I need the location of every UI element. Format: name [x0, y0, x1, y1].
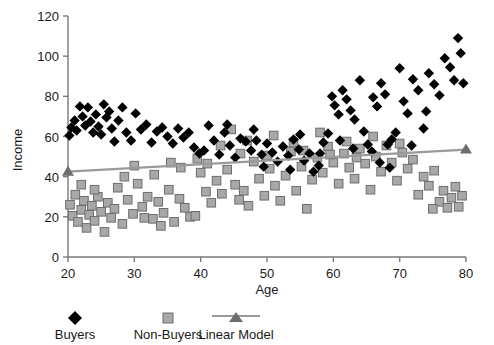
legend-non-buyers-label: Non-Buyers — [134, 327, 203, 342]
data-point-non-buyer — [207, 198, 216, 207]
data-point-non-buyer — [403, 164, 412, 173]
y-tick-label: 120 — [37, 9, 59, 24]
data-point-non-buyer — [140, 214, 149, 223]
data-point-non-buyer — [430, 166, 439, 175]
legend-non-buyers-marker — [163, 313, 173, 323]
data-point-non-buyer — [150, 170, 159, 179]
data-point-non-buyer — [276, 196, 285, 205]
data-point-non-buyer — [129, 210, 138, 219]
x-tick-label: 60 — [326, 266, 340, 281]
data-point-non-buyer — [80, 196, 89, 205]
data-point-non-buyer — [196, 168, 205, 177]
y-tick-label: 80 — [45, 89, 59, 104]
data-point-non-buyer — [308, 175, 317, 184]
data-point-non-buyer — [255, 174, 264, 183]
data-point-non-buyer — [260, 191, 269, 200]
data-point-non-buyer — [118, 220, 127, 229]
data-point-non-buyer — [82, 224, 91, 233]
y-tick-label: 100 — [37, 49, 59, 64]
data-point-non-buyer — [120, 172, 129, 181]
data-point-non-buyer — [239, 186, 248, 195]
data-point-non-buyer — [191, 212, 200, 221]
data-point-non-buyer — [443, 203, 452, 212]
data-point-non-buyer — [231, 180, 240, 189]
data-point-non-buyer — [345, 163, 354, 172]
data-point-non-buyer — [180, 203, 189, 212]
data-point-non-buyer — [154, 197, 163, 206]
data-point-non-buyer — [165, 185, 174, 194]
data-point-non-buyer — [409, 155, 418, 164]
data-point-non-buyer — [159, 209, 168, 218]
data-point-non-buyer — [451, 182, 460, 191]
data-point-non-buyer — [447, 193, 456, 202]
data-point-non-buyer — [395, 139, 404, 148]
data-point-non-buyer — [393, 176, 402, 185]
data-point-non-buyer — [97, 208, 106, 217]
data-point-non-buyer — [316, 128, 325, 137]
y-tick-label: 0 — [52, 250, 59, 265]
data-point-non-buyer — [429, 205, 438, 214]
y-tick-label: 20 — [45, 210, 59, 225]
data-point-non-buyer — [149, 215, 158, 224]
data-point-non-buyer — [77, 206, 86, 215]
data-point-non-buyer — [439, 186, 448, 195]
data-point-non-buyer — [366, 185, 375, 194]
data-point-non-buyer — [414, 190, 423, 199]
data-point-non-buyer — [369, 132, 378, 141]
data-point-non-buyer — [110, 205, 119, 214]
y-axis-title: Income — [10, 129, 25, 172]
data-point-non-buyer — [223, 165, 232, 174]
data-point-non-buyer — [235, 195, 244, 204]
data-point-non-buyer — [419, 172, 428, 181]
data-point-non-buyer — [303, 205, 312, 214]
data-point-non-buyer — [361, 159, 370, 168]
x-tick-label: 30 — [127, 266, 141, 281]
data-point-non-buyer — [143, 192, 152, 201]
data-point-non-buyer — [100, 228, 109, 237]
data-point-non-buyer — [113, 183, 122, 192]
data-point-non-buyer — [244, 201, 253, 210]
data-point-non-buyer — [157, 222, 166, 231]
x-axis-title: Age — [255, 282, 278, 297]
legend-model-label: Linear Model — [198, 327, 273, 342]
data-point-non-buyer — [107, 214, 116, 223]
y-tick-label: 40 — [45, 170, 59, 185]
data-point-non-buyer — [77, 180, 86, 189]
data-point-non-buyer — [218, 189, 227, 198]
data-point-non-buyer — [90, 217, 99, 226]
x-tick-label: 70 — [392, 266, 406, 281]
data-point-non-buyer — [271, 181, 280, 190]
data-point-non-buyer — [170, 218, 179, 227]
x-tick-label: 80 — [459, 266, 473, 281]
legend-buyers-label: Buyers — [55, 327, 96, 342]
data-point-non-buyer — [90, 185, 99, 194]
data-point-non-buyer — [74, 218, 83, 227]
data-point-non-buyer — [454, 202, 463, 211]
data-point-non-buyer — [138, 202, 147, 211]
data-point-non-buyer — [334, 179, 343, 188]
data-point-non-buyer — [71, 190, 80, 199]
data-point-non-buyer — [292, 186, 301, 195]
data-point-non-buyer — [458, 191, 467, 200]
data-point-non-buyer — [123, 195, 132, 204]
data-point-non-buyer — [425, 181, 434, 190]
data-point-non-buyer — [202, 187, 211, 196]
x-tick-label: 50 — [260, 266, 274, 281]
data-point-non-buyer — [216, 141, 225, 150]
data-point-non-buyer — [175, 194, 184, 203]
x-tick-label: 40 — [193, 266, 207, 281]
data-point-non-buyer — [133, 179, 142, 188]
chart-svg: 020406080100120 20304050607080 Income Ag… — [0, 0, 494, 345]
x-tick-label: 20 — [61, 266, 75, 281]
data-point-non-buyer — [269, 131, 278, 140]
data-point-non-buyer — [350, 174, 359, 183]
scatter-chart: 020406080100120 20304050607080 Income Ag… — [0, 0, 494, 345]
y-tick-label: 60 — [45, 130, 59, 145]
data-point-non-buyer — [212, 176, 221, 185]
data-point-non-buyer — [329, 158, 338, 167]
data-point-non-buyer — [377, 167, 386, 176]
data-point-non-buyer — [66, 200, 75, 209]
data-point-non-buyer — [88, 201, 97, 210]
